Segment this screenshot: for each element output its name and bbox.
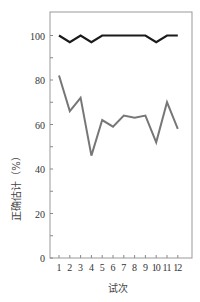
series-line-upper xyxy=(59,36,178,43)
x-tick-label: 3 xyxy=(78,262,83,273)
y-tick-label: 0 xyxy=(40,253,45,264)
y-tick-label: 20 xyxy=(35,209,45,220)
x-tick-label: 7 xyxy=(121,262,126,273)
plot-frame xyxy=(50,12,192,258)
x-tick-label: 11 xyxy=(163,262,172,273)
y-tick-label: 80 xyxy=(35,75,45,86)
y-tick-label: 100 xyxy=(30,31,45,42)
x-tick-label: 10 xyxy=(152,262,161,273)
series-line-lower xyxy=(59,76,178,156)
line-chart: 020406080100 123456789101112 试次 正确估计（%） xyxy=(0,0,200,302)
x-tick-label: 9 xyxy=(143,262,148,273)
x-tick-label: 1 xyxy=(57,262,62,273)
x-tick-label: 4 xyxy=(89,262,94,273)
series-lines xyxy=(59,36,178,156)
y-tick-label: 60 xyxy=(35,120,45,131)
x-tick-label: 2 xyxy=(67,262,72,273)
x-tick-label: 6 xyxy=(111,262,116,273)
y-tick-label: 40 xyxy=(35,164,45,175)
x-axis-title: 试次 xyxy=(108,282,128,294)
x-tick-label: 8 xyxy=(132,262,137,273)
plot-border xyxy=(50,12,192,258)
x-tick-label: 5 xyxy=(100,262,105,273)
y-axis-title: 正确估计（%） xyxy=(10,151,22,221)
x-tick-label: 12 xyxy=(173,262,182,273)
